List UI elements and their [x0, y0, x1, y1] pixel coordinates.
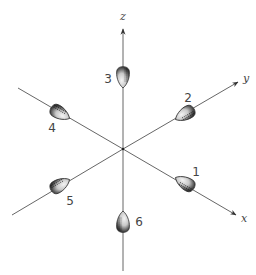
lobe-2	[172, 103, 197, 125]
axes-lobes-diagram: zyx123456	[0, 0, 256, 275]
stipple-dot	[125, 81, 126, 82]
stipple-dot	[126, 77, 127, 78]
lobe-5	[48, 174, 73, 196]
lobe-label-2: 2	[184, 91, 192, 105]
stipple-dot	[125, 73, 126, 74]
stipple-dot	[126, 69, 127, 70]
lobe-shape-icon	[117, 211, 130, 232]
stipple-dot	[126, 81, 127, 82]
lobe-label-5: 5	[66, 194, 74, 208]
stipple-dot	[119, 218, 120, 219]
lobe-label-6: 6	[135, 215, 143, 229]
axes	[12, 29, 238, 271]
stipple-dot	[119, 230, 120, 231]
axis-line-neg-y	[18, 88, 123, 149]
origin-point	[122, 148, 125, 151]
lobe-label-1: 1	[192, 165, 200, 179]
stipple-dot	[125, 79, 126, 80]
stipple-dot	[121, 230, 122, 231]
lobe-shape-icon	[48, 174, 73, 196]
lobe-6	[117, 211, 130, 232]
stipple-dot	[126, 71, 127, 72]
stipple-dot	[121, 220, 122, 221]
lobe-shape-icon	[172, 103, 197, 125]
stipple-dot	[121, 222, 122, 223]
axis-label-y: y	[242, 72, 250, 85]
stipple-dot	[119, 224, 120, 225]
stipple-dot	[119, 228, 120, 229]
stipple-dot	[119, 226, 120, 227]
stipple-dot	[126, 79, 127, 80]
labels: zyx123456	[48, 10, 250, 229]
axis-label-x: x	[241, 212, 248, 225]
axis-label-z: z	[119, 10, 126, 23]
stipple-dot	[121, 228, 122, 229]
lobe-3	[117, 67, 130, 88]
stipple-dot	[125, 77, 126, 78]
stipple-dot	[126, 73, 127, 74]
stipple-dot	[125, 69, 126, 70]
lobe-shape-icon	[117, 67, 130, 88]
stipple-dot	[125, 75, 126, 76]
stipple-dot	[126, 75, 127, 76]
stipple-dot	[121, 218, 122, 219]
stipple-dot	[121, 224, 122, 225]
lobe-label-4: 4	[48, 121, 56, 135]
stipple-dot	[121, 226, 122, 227]
lobe-label-3: 3	[104, 72, 112, 86]
stipple-dot	[119, 220, 120, 221]
stipple-dot	[119, 222, 120, 223]
stipple-dot	[125, 71, 126, 72]
